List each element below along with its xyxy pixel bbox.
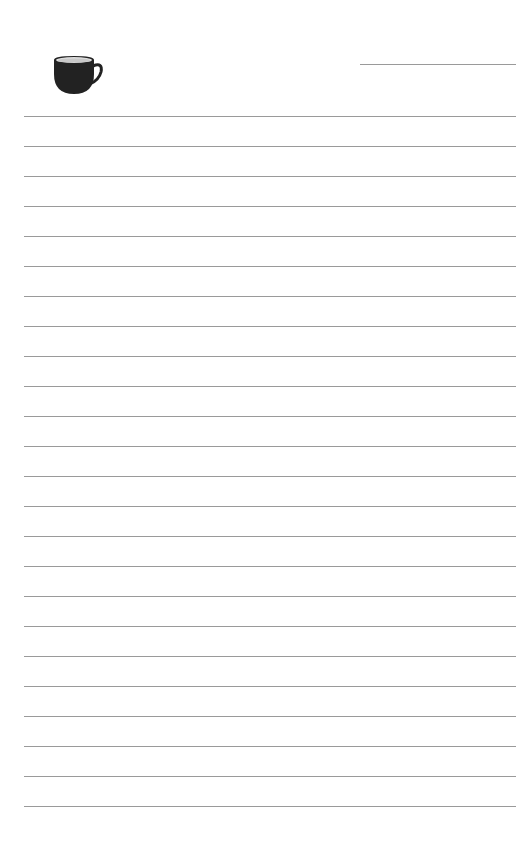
line-text: [24, 477, 516, 485]
line-text: [24, 747, 516, 755]
ruled-line[interactable]: [24, 206, 516, 236]
line-text: [24, 447, 516, 455]
ruled-line[interactable]: [24, 626, 516, 656]
line-text: [24, 627, 516, 635]
ruled-line[interactable]: [24, 806, 516, 836]
ruled-line[interactable]: [24, 356, 516, 386]
line-text: [24, 417, 516, 425]
ruled-line[interactable]: [24, 566, 516, 596]
ruled-line[interactable]: [24, 146, 516, 176]
line-text: [24, 507, 516, 515]
line-text: [24, 357, 516, 365]
line-text: [24, 807, 516, 815]
line-text: [24, 537, 516, 545]
line-text: [24, 117, 516, 125]
ruled-line[interactable]: [24, 116, 516, 146]
line-text: [24, 597, 516, 605]
line-text: [24, 207, 516, 215]
line-text: [24, 777, 516, 785]
ruled-line[interactable]: [24, 446, 516, 476]
ruled-line[interactable]: [24, 686, 516, 716]
ruled-line[interactable]: [24, 506, 516, 536]
line-text: [24, 237, 516, 245]
line-text: [24, 387, 516, 395]
line-text: [24, 327, 516, 335]
ruled-line[interactable]: [24, 476, 516, 506]
coffee-cup-icon: [52, 52, 104, 96]
ruled-line[interactable]: [24, 776, 516, 806]
ruled-line[interactable]: [24, 386, 516, 416]
line-text: [24, 177, 516, 185]
ruled-line[interactable]: [24, 236, 516, 266]
ruled-lines: [24, 116, 516, 836]
ruled-line[interactable]: [24, 716, 516, 746]
line-text: [24, 717, 516, 725]
line-text: [24, 147, 516, 155]
ruled-line[interactable]: [24, 266, 516, 296]
ruled-line[interactable]: [24, 656, 516, 686]
line-text: [24, 657, 516, 665]
title-field-line[interactable]: [360, 64, 516, 65]
ruled-line[interactable]: [24, 596, 516, 626]
line-text: [24, 297, 516, 305]
ruled-line[interactable]: [24, 326, 516, 356]
ruled-line[interactable]: [24, 746, 516, 776]
ruled-line[interactable]: [24, 176, 516, 206]
ruled-line[interactable]: [24, 296, 516, 326]
ruled-line[interactable]: [24, 416, 516, 446]
line-text: [24, 567, 516, 575]
ruled-line[interactable]: [24, 536, 516, 566]
line-text: [24, 687, 516, 695]
line-text: [24, 267, 516, 275]
